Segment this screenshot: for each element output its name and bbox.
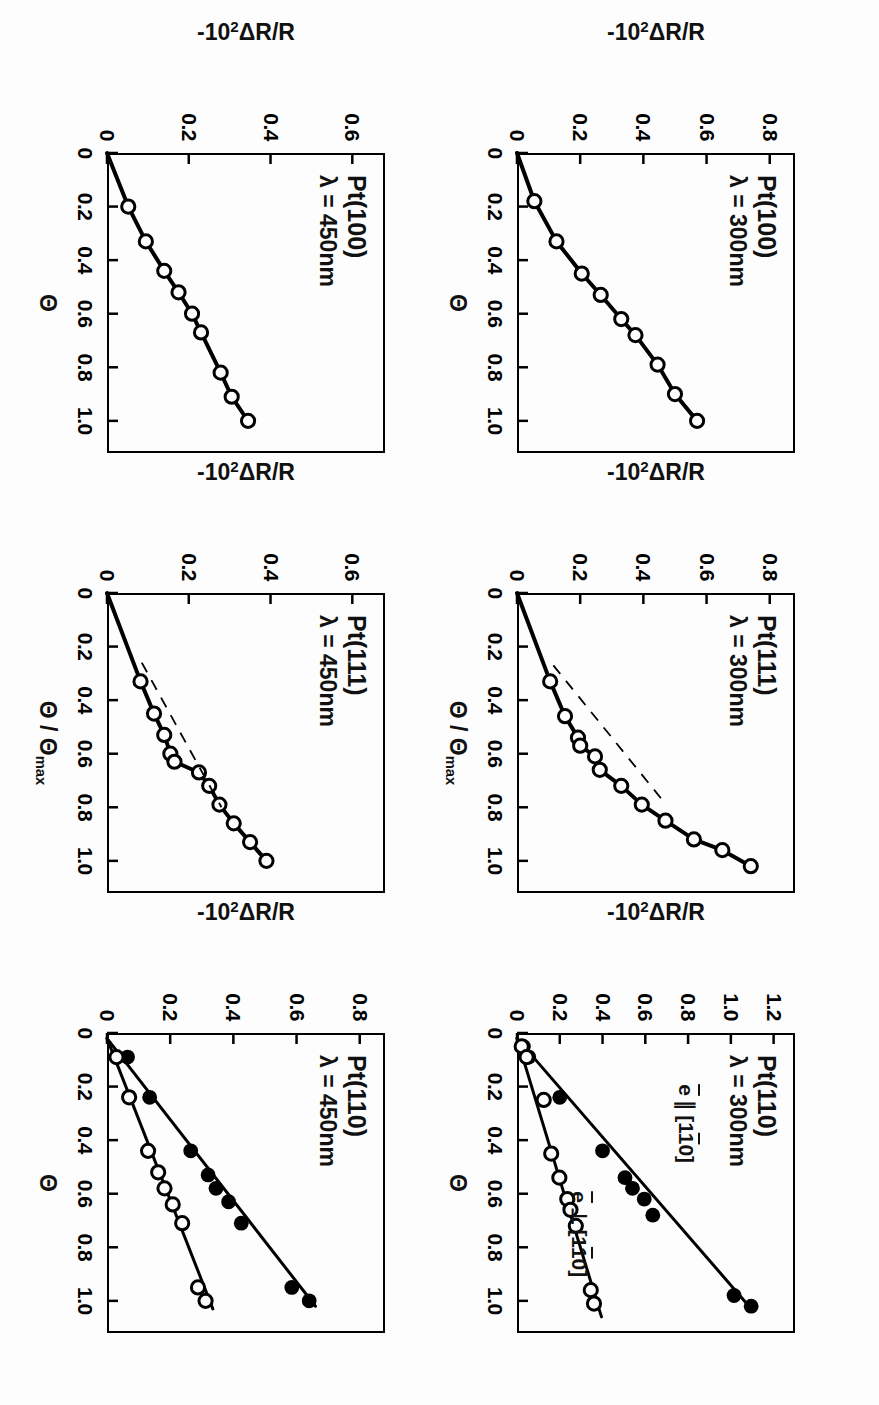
data-point-filled — [595, 1143, 610, 1158]
y-tick-label: 0 — [505, 81, 529, 141]
y-tick-label: 1.2 — [761, 961, 785, 1021]
fit-line — [517, 1038, 749, 1306]
data-point-open — [171, 285, 184, 298]
panel-subtitle-pt111-300: λ = 300nm — [723, 615, 750, 727]
data-point-open — [715, 843, 728, 856]
data-point-open — [575, 266, 588, 279]
data-point-filled — [645, 1207, 660, 1222]
y-tick-label: 1.0 — [718, 961, 742, 1021]
y-tick-label: 0.2 — [568, 521, 592, 581]
x-tick-label: 0 — [73, 147, 97, 158]
direction-annotation-parallel: e ∥ [110] — [673, 1084, 697, 1163]
y-tick-label: 0.4 — [221, 961, 245, 1021]
x-tick-label: 1.0 — [483, 406, 507, 434]
data-point-open — [614, 779, 627, 792]
y-tick-label: 0.8 — [757, 521, 781, 581]
data-point-filled — [221, 1194, 236, 1209]
data-point-open — [241, 414, 254, 427]
data-point-open — [185, 307, 198, 320]
data-point-open — [614, 312, 627, 325]
x-tick-label: 0.2 — [73, 632, 97, 660]
y-tick-label: 0.6 — [633, 961, 657, 1021]
x-tick-label: 1.0 — [73, 1286, 97, 1314]
x-tick-label: 0 — [483, 1027, 507, 1038]
data-point-open — [690, 414, 703, 427]
y-tick-label: 0.2 — [158, 961, 182, 1021]
data-point-filled — [301, 1293, 316, 1308]
data-point-filled — [284, 1280, 299, 1295]
panel-subtitle-pt100-450: λ = 450nm — [313, 175, 340, 287]
panel-pt100-300: 00.20.40.60.81.000.20.40.60.8-102ΔR/RΘPt… — [517, 153, 795, 453]
y-tick-label: 0.4 — [258, 521, 282, 581]
data-point-open — [192, 765, 205, 778]
panel-subtitle-pt110-450: λ = 450nm — [313, 1055, 340, 1167]
x-tick-label: 0.4 — [73, 1126, 97, 1154]
data-point-open — [588, 749, 601, 762]
data-point-open — [191, 1280, 204, 1293]
data-point-open — [194, 325, 207, 338]
data-point-open — [573, 739, 586, 752]
data-curve — [517, 593, 751, 866]
data-point-open — [594, 288, 607, 301]
x-axis-title: Θ — [444, 153, 471, 453]
data-point-open — [227, 816, 240, 829]
x-tick-label: 0 — [73, 1027, 97, 1038]
data-point-open — [687, 832, 700, 845]
y-axis-title: -102ΔR/R — [581, 18, 731, 46]
y-axis-title: -102ΔR/R — [581, 458, 731, 486]
y-tick-label: 0.4 — [590, 961, 614, 1021]
y-tick-label: 0 — [505, 961, 529, 1021]
y-axis-title: -102ΔR/R — [171, 18, 321, 46]
data-point-open — [141, 1144, 154, 1157]
data-point-filled — [183, 1143, 198, 1158]
y-tick-label: 0 — [95, 961, 119, 1021]
x-axis-title: Θ — [444, 1033, 471, 1333]
x-tick-label: 0.6 — [73, 299, 97, 327]
y-tick-label: 0.4 — [631, 81, 655, 141]
y-tick-label: 0.2 — [176, 521, 200, 581]
data-point-open — [157, 264, 170, 277]
data-point-open — [157, 728, 170, 741]
data-point-open — [133, 674, 146, 687]
x-tick-label: 0.8 — [73, 793, 97, 821]
data-point-filled — [552, 1089, 567, 1104]
x-tick-label: 0.2 — [483, 632, 507, 660]
y-axis-title: -102ΔR/R — [171, 458, 321, 486]
data-point-open — [549, 234, 562, 247]
panel-title-pt111-300: Pt(111) — [751, 615, 781, 696]
y-tick-label: 0.8 — [757, 81, 781, 141]
data-point-open — [552, 1171, 565, 1184]
x-tick-label: 1.0 — [483, 846, 507, 874]
data-point-open — [537, 1093, 550, 1106]
panel-title-pt100-450: Pt(100) — [341, 175, 371, 258]
x-tick-label: 0.8 — [483, 793, 507, 821]
data-point-open — [109, 1050, 122, 1063]
x-tick-label: 0 — [73, 587, 97, 598]
data-point-filled — [726, 1288, 741, 1303]
x-tick-label: 0.6 — [73, 1179, 97, 1207]
x-axis-title: Θ / Θmax — [442, 593, 470, 893]
y-axis-title: -102ΔR/R — [171, 898, 321, 926]
x-tick-label: 0.8 — [483, 1233, 507, 1261]
x-tick-label: 0.4 — [483, 686, 507, 714]
x-tick-label: 0.6 — [483, 1179, 507, 1207]
data-point-filled — [208, 1180, 223, 1195]
data-point-filled — [636, 1191, 651, 1206]
data-point-open — [202, 779, 215, 792]
direction-annotation-perpendicular: e ⊥ [110] — [566, 1191, 590, 1277]
y-tick-label: 0.4 — [631, 521, 655, 581]
x-tick-label: 0.8 — [73, 353, 97, 381]
x-tick-label: 0.4 — [73, 246, 97, 274]
x-tick-label: 1.0 — [73, 846, 97, 874]
y-tick-label: 0.8 — [676, 961, 700, 1021]
data-curve — [107, 593, 266, 861]
data-point-filled — [200, 1167, 215, 1182]
x-tick-label: 0.4 — [483, 246, 507, 274]
y-tick-label: 0.6 — [340, 521, 364, 581]
figure-rotation-wrapper: 00.20.40.60.81.000.20.40.60.8-102ΔR/RΘPt… — [25, 33, 855, 1373]
data-point-open — [225, 390, 238, 403]
y-tick-label: 0.6 — [694, 521, 718, 581]
data-point-open — [584, 1283, 597, 1296]
data-point-open — [166, 1197, 179, 1210]
y-axis-title: -102ΔR/R — [581, 898, 731, 926]
